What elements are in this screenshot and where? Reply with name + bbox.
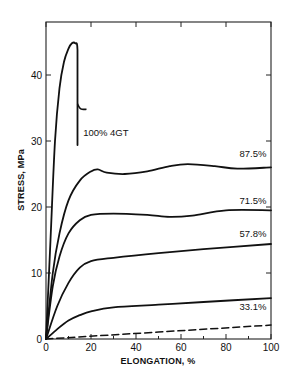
y-tick-label: 30 <box>31 136 43 147</box>
series-label: 87.5% <box>240 148 267 159</box>
x-tick-label: 20 <box>85 342 97 353</box>
x-tick-label: 40 <box>130 342 142 353</box>
y-tick-label: 0 <box>36 334 42 345</box>
x-tick-label: 100 <box>263 342 280 353</box>
series-line-87-5- <box>46 164 271 339</box>
series-line-57-8- <box>46 244 271 339</box>
x-tick-label: 0 <box>43 342 49 353</box>
data-series <box>46 43 271 339</box>
x-tick-label: 80 <box>220 342 232 353</box>
series-line-33-1- <box>46 298 271 339</box>
x-axis-title: ELONGATION, % <box>121 356 196 366</box>
series-label: 100% 4GT <box>83 127 129 138</box>
series-label: 33.1% <box>240 301 267 312</box>
x-tick-label: 60 <box>175 342 187 353</box>
series-label: 71.5% <box>240 195 267 206</box>
series-labels: 100% 4GT87.5%71.5%57.8%33.1% <box>83 127 267 312</box>
y-tick-label: 10 <box>31 268 43 279</box>
stress-strain-chart: 020406080100010203040 100% 4GT87.5%71.5%… <box>0 0 290 378</box>
series-hook <box>78 104 87 109</box>
series-label: 57.8% <box>240 228 267 239</box>
y-axis-title: STRESS, MPa <box>16 148 26 211</box>
y-tick-label: 40 <box>31 70 43 81</box>
series-line-71-5- <box>46 210 271 339</box>
y-tick-label: 20 <box>31 202 43 213</box>
